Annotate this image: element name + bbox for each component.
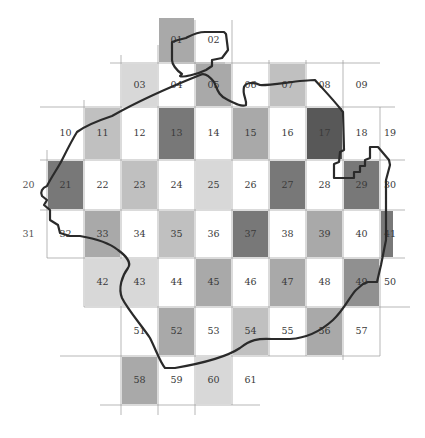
- cell-label: 16: [281, 127, 293, 138]
- cell-label: 53: [207, 325, 219, 336]
- cell-label: 12: [133, 127, 145, 138]
- cell-label: 20: [22, 179, 34, 190]
- cell-label: 27: [281, 179, 293, 190]
- cell-label: 57: [355, 325, 367, 336]
- cell-label: 36: [207, 228, 219, 239]
- cell-label: 33: [96, 228, 108, 239]
- cell-label: 09: [355, 79, 367, 90]
- cell-label: 35: [170, 228, 182, 239]
- cell-label: 59: [170, 374, 182, 385]
- cell-label: 15: [244, 127, 256, 138]
- cell-label: 14: [207, 127, 219, 138]
- cell-label: 10: [59, 127, 71, 138]
- cell-label: 28: [318, 179, 330, 190]
- cell-label: 50: [384, 276, 396, 287]
- cell-label: 34: [133, 228, 145, 239]
- cell-label: 19: [384, 127, 396, 138]
- cell-label: 38: [281, 228, 293, 239]
- cell-label: 58: [133, 374, 145, 385]
- cell-label: 17: [318, 127, 330, 138]
- cell-label: 40: [355, 228, 367, 239]
- cell-label: 37: [244, 228, 256, 239]
- cell-label: 61: [244, 374, 256, 385]
- cell-label: 26: [244, 179, 256, 190]
- cell-label: 18: [355, 127, 367, 138]
- cell-label: 25: [207, 179, 219, 190]
- cell-label: 42: [96, 276, 108, 287]
- cell-label: 11: [96, 127, 108, 138]
- cell-label: 48: [318, 276, 330, 287]
- cell-label: 43: [133, 276, 145, 287]
- cell-label: 47: [281, 276, 293, 287]
- cell-label: 52: [170, 325, 182, 336]
- cell-label: 03: [133, 79, 145, 90]
- cell-label: 24: [170, 179, 182, 190]
- cell-label: 23: [133, 179, 145, 190]
- cell-label: 13: [170, 127, 182, 138]
- cell-label: 39: [318, 228, 330, 239]
- cell-label: 44: [170, 276, 182, 287]
- grid-map: 0102030405060708091011121314151617181920…: [0, 0, 425, 438]
- cell-label: 55: [281, 325, 293, 336]
- cell-label: 60: [207, 374, 219, 385]
- cell-label: 21: [59, 179, 71, 190]
- cell-label: 29: [355, 179, 367, 190]
- cell-label: 31: [22, 228, 34, 239]
- cell-label: 22: [96, 179, 108, 190]
- cell-label: 54: [244, 325, 256, 336]
- cell-label: 45: [207, 276, 219, 287]
- cell-label: 08: [318, 79, 330, 90]
- cell-label: 46: [244, 276, 256, 287]
- cell-label: 02: [207, 34, 219, 45]
